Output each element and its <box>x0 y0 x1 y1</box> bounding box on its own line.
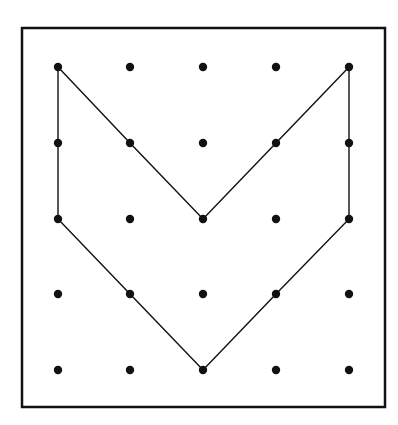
peg-dot <box>199 215 207 223</box>
peg-dot <box>199 290 207 298</box>
peg-dot <box>272 215 280 223</box>
peg-dot <box>345 63 353 71</box>
peg-dot <box>199 63 207 71</box>
peg-dot <box>126 366 134 374</box>
peg-dot <box>54 63 62 71</box>
peg-dot <box>272 290 280 298</box>
peg-dot <box>345 139 353 147</box>
peg-dot <box>54 139 62 147</box>
peg-dot <box>54 215 62 223</box>
peg-dot <box>199 366 207 374</box>
peg-dot <box>54 290 62 298</box>
peg-dot <box>54 366 62 374</box>
peg-dot <box>126 215 134 223</box>
peg-dot <box>126 139 134 147</box>
peg-dot <box>126 63 134 71</box>
peg-dot <box>126 290 134 298</box>
peg-dot <box>345 290 353 298</box>
peg-dot <box>272 366 280 374</box>
peg-dot <box>272 139 280 147</box>
peg-dot <box>345 215 353 223</box>
peg-dot <box>345 366 353 374</box>
peg-dot <box>199 139 207 147</box>
peg-dot <box>272 63 280 71</box>
geoboard-diagram <box>0 0 398 425</box>
